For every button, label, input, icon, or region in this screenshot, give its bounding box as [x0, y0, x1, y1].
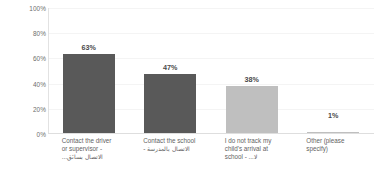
bar-slot: 38% — [211, 8, 293, 133]
x-axis-category-text-ar: الاتصال بالمدرسة — [147, 145, 190, 152]
y-axis-tick: 20% — [14, 105, 46, 112]
x-label-slot: Other (please specify) — [293, 137, 375, 183]
x-axis-category-label: I do not track my child's arrival at sch… — [225, 137, 279, 183]
y-axis-tick: 40% — [14, 80, 46, 87]
bar[interactable] — [307, 132, 359, 133]
bar-chart: 100% 80% 60% 40% 20% 0% 63% 47% 38% — [0, 0, 380, 186]
bar-group: 63% 47% 38% 1% — [48, 8, 374, 133]
bar-value-label: 1% — [293, 112, 375, 120]
bar-value-label: 38% — [211, 76, 293, 84]
bar[interactable] — [63, 54, 115, 133]
bar-slot: 47% — [130, 8, 212, 133]
bar-slot: 1% — [293, 8, 375, 133]
x-label-slot: Contact the driver or supervisor - الاتص… — [48, 137, 130, 183]
bar[interactable] — [226, 86, 278, 134]
bar-value-label: 63% — [48, 44, 130, 52]
x-axis-category-text-en: Other (please specify) — [306, 137, 344, 152]
bar-slot: 63% — [48, 8, 130, 133]
x-label-slot: Contact the school - الاتصال بالمدرسة — [130, 137, 212, 183]
y-axis-tick: 80% — [14, 30, 46, 37]
x-axis-category-label: Other (please specify) — [306, 137, 360, 183]
bar-value-label: 47% — [130, 64, 212, 72]
y-axis-tick: 100% — [14, 5, 46, 12]
x-axis-labels: Contact the driver or supervisor - الاتص… — [48, 137, 374, 183]
y-axis-tick: 60% — [14, 55, 46, 62]
bar[interactable] — [144, 74, 196, 133]
x-axis-category-text-en: Contact the driver or supervisor - — [62, 137, 112, 152]
x-axis-line — [48, 133, 374, 134]
y-axis-tick: 0% — [14, 131, 46, 138]
x-axis-category-label: Contact the driver or supervisor - الاتص… — [62, 137, 116, 183]
x-axis-category-text-ar: لا... — [249, 153, 257, 160]
x-axis-category-label: Contact the school - الاتصال بالمدرسة — [143, 137, 197, 183]
y-axis: 100% 80% 60% 40% 20% 0% — [14, 8, 46, 134]
x-axis-category-text-ar: الاتصال بسائق... — [62, 153, 103, 160]
plot-area: 63% 47% 38% 1% — [48, 8, 374, 134]
x-label-slot: I do not track my child's arrival at sch… — [211, 137, 293, 183]
